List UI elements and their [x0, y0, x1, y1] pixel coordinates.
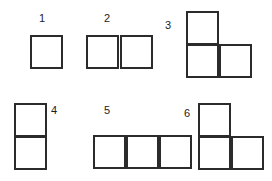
figure-2-square — [120, 35, 153, 69]
figure-3: 3 — [163, 8, 255, 80]
figure-1: 1 — [30, 12, 66, 72]
figure-5: 5 — [93, 103, 195, 173]
figures-diagram: 1 2 3 4 5 6 — [0, 0, 272, 181]
figure-2: 2 — [86, 12, 158, 72]
figure-4-square — [14, 103, 47, 137]
figure-3-square — [186, 11, 219, 45]
figure-5-square — [93, 135, 126, 169]
figure-6: 6 — [184, 103, 268, 175]
figure-1-label: 1 — [39, 13, 45, 24]
figure-4: 4 — [14, 103, 66, 173]
figure-4-label: 4 — [51, 105, 57, 116]
figure-1-square — [30, 35, 63, 69]
figure-3-label: 3 — [165, 20, 171, 31]
figure-6-label: 6 — [184, 108, 190, 119]
figure-6-square — [198, 136, 231, 170]
figure-5-square — [126, 135, 159, 169]
figure-3-square — [219, 44, 252, 78]
figure-6-square — [198, 103, 231, 137]
figure-2-label: 2 — [104, 13, 110, 24]
figure-2-square — [86, 35, 119, 69]
figure-5-label: 5 — [104, 105, 110, 116]
figure-6-square — [231, 136, 264, 170]
figure-3-square — [186, 44, 219, 78]
figure-4-square — [14, 136, 47, 170]
